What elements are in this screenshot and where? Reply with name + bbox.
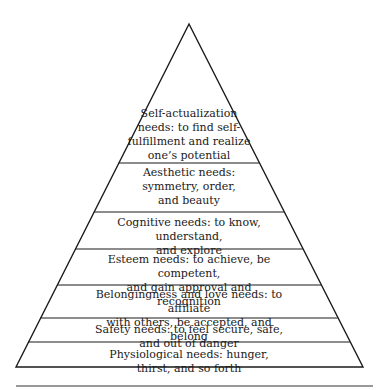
tier-physiological: Physiological needs: hunger, thirst, and… xyxy=(95,348,284,376)
tier-safety: Safety needs: to feel secure, safe, and … xyxy=(95,323,284,351)
tier-cognitive: Cognitive needs: to know, understand, an… xyxy=(95,216,284,258)
tier-aesthetic: Aesthetic needs: symmetry, order, and be… xyxy=(142,166,236,208)
tier-self-actualization: Self-actualization needs: to find self- … xyxy=(128,107,251,163)
